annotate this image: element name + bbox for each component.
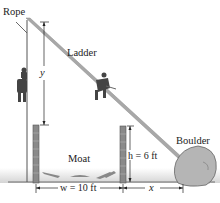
diagram-graphics [0, 0, 220, 203]
left-post [33, 125, 39, 183]
w-dimension-label: w = 10 ft [60, 183, 96, 193]
ladder-moat-diagram: Rope Ladder Boulder Moat y h = 6 ft w = … [0, 0, 220, 203]
boulder-label: Boulder [176, 136, 210, 147]
boulder [174, 146, 216, 186]
h-dimension-label: h = 6 ft [128, 151, 157, 161]
ladder-label: Ladder [67, 48, 97, 59]
right-post [120, 126, 126, 183]
x-variable-label: x [149, 183, 154, 194]
rope-label: Rope [3, 7, 25, 18]
moat-label: Moat [68, 154, 90, 165]
rope-climber [17, 68, 27, 103]
rope-leader-line [16, 22, 27, 33]
y-variable-label: y [40, 68, 45, 79]
